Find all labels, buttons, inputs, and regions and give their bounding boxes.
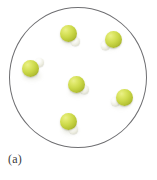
large-atom bbox=[60, 113, 77, 130]
large-atom bbox=[105, 31, 122, 48]
large-atom bbox=[116, 89, 133, 106]
figure-caption: (a) bbox=[8, 152, 22, 167]
large-atom bbox=[60, 25, 77, 42]
figure-panel-a: (a) bbox=[0, 0, 157, 180]
large-atom bbox=[68, 76, 85, 93]
large-atom bbox=[22, 60, 39, 77]
